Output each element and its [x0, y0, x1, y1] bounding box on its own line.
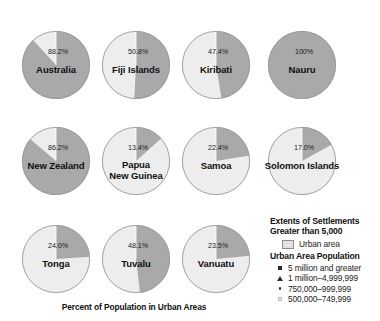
legend-heading-line2: Greater than 5,000	[270, 226, 342, 236]
legend-population-class: 500,000–749,999	[275, 294, 380, 305]
legend-population-class: 750,000–999,999	[275, 283, 380, 294]
legend-population-classes: 5 million and greater1 million–4,999,999…	[270, 262, 380, 304]
legend-population-label: 500,000–749,999	[288, 294, 351, 304]
pie-graphic	[101, 224, 171, 294]
open-circle-icon	[275, 294, 285, 304]
pie-graphic	[267, 126, 337, 196]
legend-population-heading: Urban Area Population	[270, 251, 380, 262]
symbol-glyph	[278, 297, 281, 300]
urban-area-label: Urban area	[299, 239, 340, 249]
legend-population-class: 5 million and greater	[275, 262, 380, 273]
pie-chart-figure: 88.2%Australia50.8%Fiji Islands47.4%Kiri…	[0, 0, 380, 321]
urban-area-swatch-icon	[282, 240, 294, 249]
filled-square-icon	[275, 263, 285, 273]
legend-population-label: 1 million–4,999,999	[288, 273, 358, 283]
filled-triangle-icon	[275, 273, 285, 283]
pie-graphic	[21, 30, 91, 100]
pie-graphic	[101, 126, 171, 196]
legend-heading-line1: Extents of Settlements	[270, 216, 359, 226]
pie-graphic	[21, 224, 91, 294]
pie-graphic	[21, 126, 91, 196]
symbol-glyph	[278, 266, 282, 270]
pie-graphic	[181, 224, 251, 294]
chart-title: Percent of Population in Urban Areas	[0, 302, 268, 312]
legend-population-label: 5 million and greater	[288, 263, 361, 273]
legend-population-label: 750,000–999,999	[288, 284, 351, 294]
pie-graphic	[181, 126, 251, 196]
map-legend: Extents of Settlements Greater than 5,00…	[270, 216, 380, 304]
legend-heading: Extents of Settlements Greater than 5,00…	[270, 216, 380, 236]
symbol-glyph	[279, 287, 282, 290]
pie-graphic	[267, 30, 337, 100]
filled-dot-icon	[275, 284, 285, 294]
pie-graphic	[181, 30, 251, 100]
pie-graphic	[101, 30, 171, 100]
symbol-glyph	[277, 276, 283, 281]
legend-urban-area-row: Urban area	[282, 239, 380, 249]
legend-population-class: 1 million–4,999,999	[275, 273, 380, 284]
